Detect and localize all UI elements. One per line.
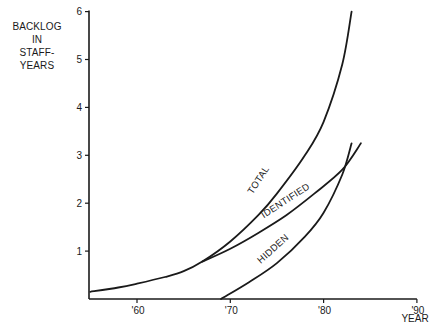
- backlog-chart: 123456'60'70'80'90 TOTALIDENTIFIEDHIDDEN…: [0, 0, 434, 330]
- series-labels: TOTALIDENTIFIEDHIDDEN: [245, 164, 312, 266]
- axes: 123456'60'70'80'90: [76, 6, 424, 316]
- y-tick-label: 6: [76, 6, 82, 17]
- series-curves: [90, 12, 361, 299]
- curve-label-total: TOTAL: [245, 164, 271, 196]
- y-tick-label: 5: [76, 54, 82, 65]
- curve-label-identified: IDENTIFIED: [259, 180, 312, 220]
- y-tick-label: 2: [76, 198, 82, 209]
- x-tick-label: '80: [318, 305, 331, 316]
- curve-hidden: [221, 143, 352, 299]
- y-tick-label: 1: [76, 246, 82, 257]
- x-tick-label: '60: [131, 305, 144, 316]
- y-tick-label: 4: [76, 102, 82, 113]
- curve-total: [90, 12, 351, 292]
- x-tick-label: '70: [225, 305, 238, 316]
- curve-label-hidden: HIDDEN: [255, 232, 291, 266]
- x-axis-label: YEAR: [401, 313, 428, 324]
- y-tick-label: 3: [76, 150, 82, 161]
